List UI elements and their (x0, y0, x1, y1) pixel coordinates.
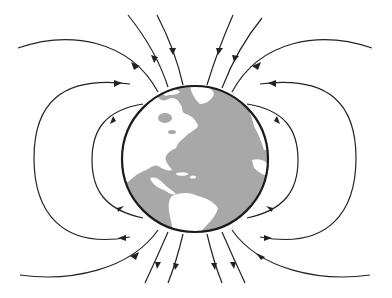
arrow-icon (268, 80, 276, 87)
earth-globe (120, 85, 270, 246)
hudson-bay (158, 113, 172, 123)
field-line-bottom-left-mid (145, 232, 168, 283)
arrow-icon (274, 116, 280, 124)
arrow-icon (118, 235, 126, 241)
arrow-icon (252, 62, 261, 70)
great-lakes (168, 130, 176, 134)
arrow-icon (256, 253, 265, 260)
field-line-left-loop-outer (34, 82, 130, 239)
field-line-right-loop-outer (260, 82, 356, 239)
arrow-icon (114, 80, 122, 87)
field-line-bottom-right-inner (207, 234, 222, 283)
field-line-top-left-inner (157, 15, 183, 85)
cuba (176, 172, 188, 176)
field-line-bottom-left-inner (168, 234, 183, 283)
diagram-canvas (0, 0, 392, 298)
arrow-icon (232, 55, 239, 62)
arrow-icon (264, 235, 272, 241)
hispaniola (190, 176, 196, 179)
arrow-icon (110, 116, 116, 124)
field-line-bottom-right-mid (222, 232, 245, 283)
arrow-icon (169, 48, 176, 55)
arrow-icon (155, 262, 161, 269)
arrow-icon (230, 262, 236, 269)
magnetic-field-diagram: Earth's magnetic field lines (0, 0, 392, 298)
field-line-bottom-right-outer (232, 230, 370, 277)
